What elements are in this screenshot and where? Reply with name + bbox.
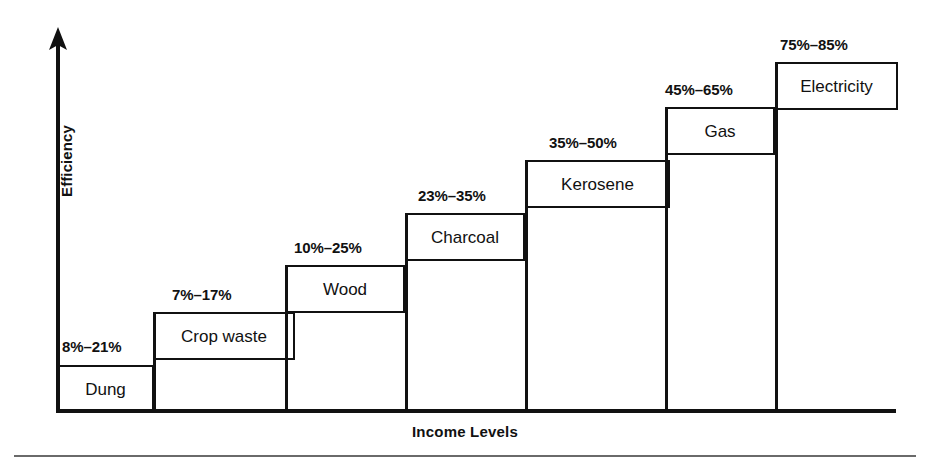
step-box: Crop waste: [153, 312, 295, 360]
step-efficiency-range: 8%–21%: [62, 339, 121, 354]
step-label: Crop waste: [181, 328, 267, 345]
step-label: Charcoal: [431, 229, 499, 246]
step-efficiency-range: 7%–17%: [172, 287, 231, 302]
step-efficiency-range: 45%–65%: [665, 82, 733, 97]
step-boxes-layer: Dung8%–21%Crop waste7%–17%Wood10%–25%Cha…: [0, 0, 930, 470]
y-axis-title: Efficiency: [58, 96, 80, 226]
step-label: Gas: [704, 123, 735, 140]
step-box: Wood: [285, 265, 405, 313]
x-axis-title: Income Levels: [0, 423, 930, 440]
step-box: Electricity: [775, 62, 898, 110]
step-riser: [775, 62, 778, 413]
step-efficiency-range: 75%–85%: [780, 37, 848, 52]
step-box: Dung: [57, 365, 154, 413]
step-label: Dung: [85, 381, 126, 398]
step-box: Charcoal: [405, 213, 525, 261]
step-box: Gas: [665, 107, 775, 155]
step-label: Wood: [323, 281, 367, 298]
energy-ladder-figure: Dung8%–21%Crop waste7%–17%Wood10%–25%Cha…: [0, 0, 930, 470]
step-efficiency-range: 23%–35%: [418, 188, 486, 203]
step-label: Kerosene: [561, 176, 634, 193]
step-box: Kerosene: [525, 160, 670, 208]
step-efficiency-range: 10%–25%: [294, 240, 362, 255]
step-label: Electricity: [800, 78, 873, 95]
footer-divider: [14, 455, 916, 457]
step-efficiency-range: 35%–50%: [549, 135, 617, 150]
